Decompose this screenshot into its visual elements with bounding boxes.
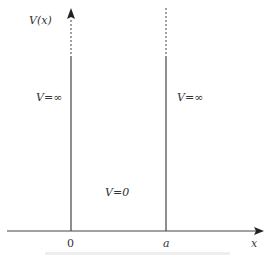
left-region-label: V=∞ xyxy=(36,91,62,104)
infinite-well-diagram: V(x) V=∞ V=0 V=∞ 0 a x xyxy=(0,0,268,258)
inside-region-label: V=0 xyxy=(105,186,129,199)
x-tick-0: 0 xyxy=(67,237,74,250)
y-axis-arrow-icon xyxy=(67,8,75,19)
y-axis-label: V(x) xyxy=(29,14,52,27)
x-tick-a: a xyxy=(163,237,170,250)
right-region-label: V=∞ xyxy=(177,91,203,104)
x-axis-label: x xyxy=(251,237,258,250)
caption-faint xyxy=(45,252,230,255)
